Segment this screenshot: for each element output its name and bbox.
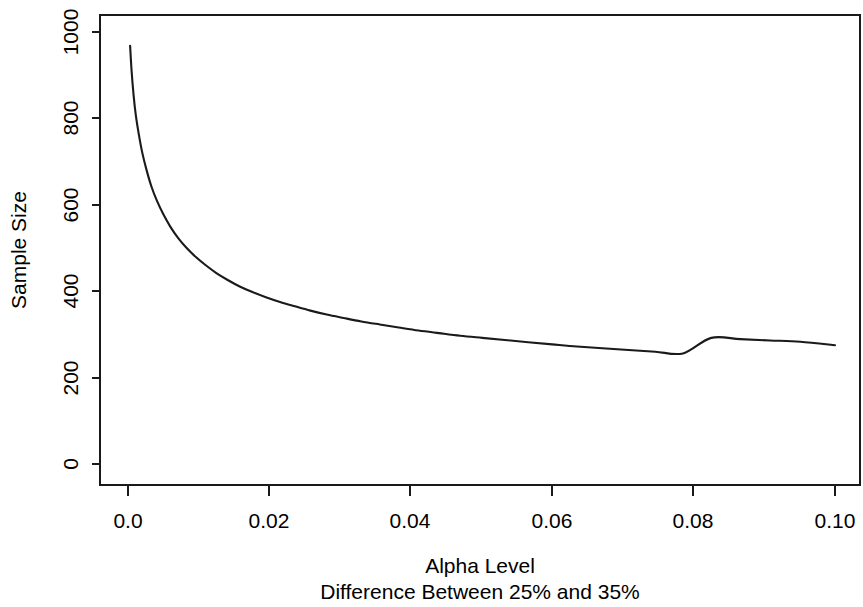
data-curve-sample-size	[130, 46, 835, 354]
y-tick-label-200: 200	[59, 360, 82, 395]
y-tick-label-1000: 1000	[59, 9, 82, 56]
x-tick-label-0.10: 0.10	[815, 509, 856, 532]
plot-frame	[100, 15, 860, 485]
y-axis-ticks	[92, 32, 100, 464]
x-axis-subtitle: Difference Between 25% and 35%	[320, 580, 640, 603]
x-axis-ticks	[128, 485, 835, 496]
y-axis-tick-labels: 1000 800 600 400 200 0	[59, 9, 82, 470]
x-tick-label-0.08: 0.08	[673, 509, 714, 532]
chart-figure: 1000 800 600 400 200 0 Sample Size 0.0 0…	[0, 0, 863, 607]
x-tick-label-0.06: 0.06	[532, 509, 573, 532]
plot-canvas: 1000 800 600 400 200 0 Sample Size 0.0 0…	[0, 0, 863, 607]
y-tick-label-400: 400	[59, 273, 82, 308]
x-axis-title: Alpha Level	[425, 554, 535, 577]
x-tick-label-0.04: 0.04	[390, 509, 431, 532]
y-tick-label-0: 0	[59, 458, 82, 470]
x-tick-label-0.0: 0.0	[113, 509, 142, 532]
y-tick-label-800: 800	[59, 100, 82, 135]
y-tick-label-600: 600	[59, 187, 82, 222]
x-tick-label-0.02: 0.02	[249, 509, 290, 532]
y-axis-title: Sample Size	[7, 191, 30, 309]
x-axis-tick-labels: 0.0 0.02 0.04 0.06 0.08 0.10	[113, 509, 855, 532]
